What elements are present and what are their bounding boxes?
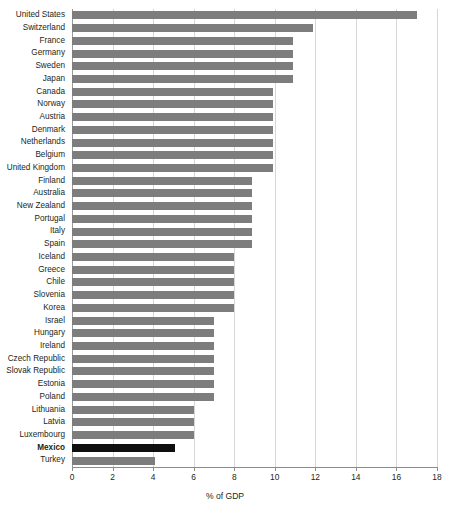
bar-row: [72, 314, 437, 327]
x-axis-line: [72, 467, 437, 468]
category-label: Iceland: [0, 251, 69, 264]
category-label: Estonia: [0, 378, 69, 391]
bar-row: [72, 302, 437, 315]
bar-row: [72, 85, 437, 98]
bar[interactable]: [72, 304, 234, 312]
category-label: New Zealand: [0, 200, 69, 213]
bar-row: [72, 200, 437, 213]
bar[interactable]: [72, 228, 252, 236]
x-tick-4: [153, 467, 154, 471]
gridline-18: [437, 9, 438, 467]
bar[interactable]: [72, 11, 417, 19]
x-tick-label: 8: [232, 473, 237, 481]
bar[interactable]: [72, 393, 214, 401]
bar-row: [72, 225, 437, 238]
bar-row: [72, 136, 437, 149]
bar[interactable]: [72, 418, 194, 426]
category-label: Norway: [0, 98, 69, 111]
bar[interactable]: [72, 278, 234, 286]
category-label: Switzerland: [0, 22, 69, 35]
bar[interactable]: [72, 342, 214, 350]
bar[interactable]: [72, 126, 273, 134]
bar[interactable]: [72, 380, 214, 388]
x-tick-label: 6: [191, 473, 196, 481]
bar[interactable]: [72, 151, 273, 159]
category-label: Spain: [0, 238, 69, 251]
bar[interactable]: [72, 317, 214, 325]
bar[interactable]: [72, 177, 252, 185]
category-label: Hungary: [0, 327, 69, 340]
x-tick-0: [72, 467, 73, 471]
bar[interactable]: [72, 253, 234, 261]
bar-row: [72, 174, 437, 187]
bar-row: [72, 187, 437, 200]
bar-rows: [72, 9, 437, 467]
bar[interactable]: [72, 431, 194, 439]
category-label: Austria: [0, 111, 69, 124]
bar-row: [72, 340, 437, 353]
category-label: Czech Republic: [0, 352, 69, 365]
bar-row: [72, 251, 437, 264]
bar[interactable]: [72, 202, 252, 210]
category-label: Lithuania: [0, 403, 69, 416]
bar[interactable]: [72, 189, 252, 197]
x-tick-label: 14: [351, 473, 360, 481]
bar[interactable]: [72, 139, 273, 147]
bar-row: [72, 98, 437, 111]
bar-row: [72, 441, 437, 454]
x-tick-label: 16: [392, 473, 401, 481]
bar-row: [72, 429, 437, 442]
bar[interactable]: [72, 113, 273, 121]
bar-row: [72, 365, 437, 378]
bar-row: [72, 263, 437, 276]
bar-row: [72, 454, 437, 467]
category-label: Belgium: [0, 149, 69, 162]
bar-row: [72, 9, 437, 22]
category-label: France: [0, 34, 69, 47]
bar-row: [72, 352, 437, 365]
bar-row: [72, 289, 437, 302]
category-label: Canada: [0, 85, 69, 98]
bar[interactable]: [72, 457, 155, 465]
x-tick-6: [194, 467, 195, 471]
bar[interactable]: [72, 62, 293, 70]
bar[interactable]: [72, 291, 234, 299]
category-label: Korea: [0, 302, 69, 315]
category-label: Sweden: [0, 60, 69, 73]
bar[interactable]: [72, 329, 214, 337]
x-axis-title: % of GDP: [0, 492, 450, 501]
bar[interactable]: [72, 88, 273, 96]
x-tick-label: 10: [270, 473, 279, 481]
bar[interactable]: [72, 367, 214, 375]
bar[interactable]: [72, 164, 273, 172]
category-label: Finland: [0, 174, 69, 187]
category-label: United Kingdom: [0, 162, 69, 175]
bar[interactable]: [72, 444, 175, 452]
bar-row: [72, 73, 437, 86]
bar[interactable]: [72, 37, 293, 45]
bar-row: [72, 416, 437, 429]
bar[interactable]: [72, 266, 234, 274]
x-tick-label: 12: [311, 473, 320, 481]
category-label: Australia: [0, 187, 69, 200]
bar-row: [72, 47, 437, 60]
bar[interactable]: [72, 355, 214, 363]
bar-row: [72, 403, 437, 416]
bar[interactable]: [72, 240, 252, 248]
x-tick-8: [234, 467, 235, 471]
category-label: Germany: [0, 47, 69, 60]
bar-row: [72, 123, 437, 136]
bar[interactable]: [72, 406, 194, 414]
bar[interactable]: [72, 100, 273, 108]
bar[interactable]: [72, 24, 313, 32]
bar-row: [72, 111, 437, 124]
bar-row: [72, 213, 437, 226]
bar[interactable]: [72, 75, 293, 83]
bar[interactable]: [72, 215, 252, 223]
bar-row: [72, 276, 437, 289]
bar-row: [72, 60, 437, 73]
bar-row: [72, 327, 437, 340]
category-label: Mexico: [0, 441, 69, 454]
x-tick-12: [315, 467, 316, 471]
bar[interactable]: [72, 50, 293, 58]
